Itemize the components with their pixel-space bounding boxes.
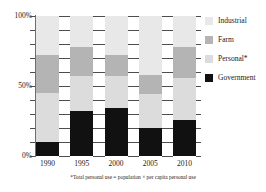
bar-segment [105, 108, 128, 156]
y-axis-tick [30, 156, 35, 157]
y-axis-tick [30, 30, 35, 31]
bar-segment [105, 55, 128, 76]
gridline-dash [196, 58, 201, 59]
legend-item[interactable]: Personal* [205, 49, 265, 68]
bar-segment [70, 76, 93, 111]
legend-item[interactable]: Farm [205, 30, 265, 49]
y-axis-tick [30, 16, 35, 17]
legend-item[interactable]: Industrial [205, 11, 265, 30]
bar-segment [70, 16, 93, 47]
gridline-dash [93, 156, 104, 157]
legend-label: Personal* [218, 54, 248, 63]
chart-footnote: *Total personal use = population × per c… [0, 174, 266, 181]
gridline-dash [162, 156, 173, 157]
bar-segment [36, 93, 59, 142]
chart-legend: IndustrialFarmPersonal*Government [205, 11, 265, 87]
y-axis-tick-marks [0, 16, 36, 156]
bar-column [139, 16, 162, 156]
bar-segment [36, 142, 59, 156]
bar-segment [70, 111, 93, 156]
gridline-dash [196, 16, 201, 17]
bar-segment [36, 55, 59, 93]
legend-swatch-personal [205, 55, 213, 63]
bar-segment [70, 47, 93, 76]
gridline-dash [196, 30, 201, 31]
gridline-dash [196, 128, 201, 129]
gridline-dash [196, 86, 201, 87]
x-axis-label: 1990 [36, 159, 59, 173]
gridline-dash [196, 156, 201, 157]
x-axis-labels: 19901995200020052010 [36, 159, 196, 173]
bar-column [36, 16, 59, 156]
bar-segment [36, 16, 59, 55]
legend-item[interactable]: Government [205, 68, 265, 87]
x-axis-label: 2010 [173, 159, 196, 173]
y-axis-tick [30, 142, 35, 143]
gridline-dash [196, 100, 201, 101]
legend-label: Farm [218, 35, 234, 44]
x-axis-label: 2000 [105, 159, 128, 173]
bar-column [105, 16, 128, 156]
legend-label: Industrial [218, 16, 247, 25]
gridline-dash [196, 142, 201, 143]
y-axis-tick [30, 100, 35, 101]
y-axis-tick [30, 58, 35, 59]
gridline-dash-row [36, 156, 196, 157]
x-axis-label: 2005 [139, 159, 162, 173]
legend-swatch-industrial [205, 17, 213, 25]
legend-swatch-government [205, 74, 213, 82]
bar-column [70, 16, 93, 156]
y-axis-tick [30, 86, 35, 87]
legend-swatch-farm [205, 36, 213, 44]
bar-segment [173, 47, 196, 78]
gridline-dash [196, 44, 201, 45]
bar-segment [173, 120, 196, 156]
y-axis-tick [30, 114, 35, 115]
y-axis-tick [30, 72, 35, 73]
x-axis-label: 1995 [70, 159, 93, 173]
bar-segment [139, 94, 162, 128]
gridline-dash [59, 156, 70, 157]
bar-segment [173, 78, 196, 120]
bar-segment [173, 16, 196, 47]
gridline-dash [196, 72, 201, 73]
bar-segment [105, 76, 128, 108]
bar-segment [139, 75, 162, 95]
legend-label: Government [218, 73, 256, 82]
y-axis-tick [30, 128, 35, 129]
bar-group [36, 16, 196, 156]
stacked-bar-chart: 100%50%0% 19901995200020052010 Industria… [0, 0, 266, 192]
y-axis-tick [30, 44, 35, 45]
gridline-dash [128, 156, 139, 157]
bar-segment [139, 16, 162, 75]
bar-column [173, 16, 196, 156]
bar-segment [139, 128, 162, 156]
bar-segment [105, 16, 128, 55]
gridline-dash [196, 114, 201, 115]
